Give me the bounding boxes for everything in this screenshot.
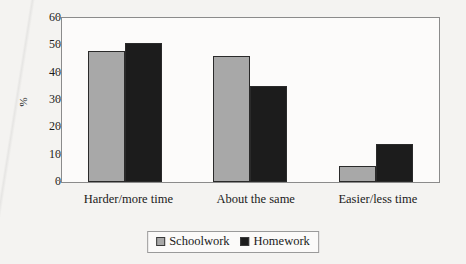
bar-group bbox=[213, 18, 287, 182]
bar-group bbox=[88, 18, 162, 182]
bar-group bbox=[339, 18, 413, 182]
chart-legend: SchoolworkHomework bbox=[147, 231, 319, 253]
x-axis-label: About the same bbox=[216, 192, 294, 207]
bar-schoolwork-1 bbox=[213, 56, 250, 182]
bar-schoolwork-0 bbox=[88, 51, 125, 182]
x-axis-labels: Harder/more timeAbout the sameEasier/les… bbox=[62, 192, 439, 207]
y-axis-tick-label: 10 bbox=[25, 149, 61, 159]
y-axis-tick-label: 50 bbox=[25, 39, 61, 49]
legend-label: Homework bbox=[254, 234, 310, 249]
y-axis: 0102030405060 bbox=[15, 17, 61, 183]
bar-homework-2 bbox=[376, 144, 413, 182]
bar-chart-figure: % 0102030405060 Harder/more timeAbout th… bbox=[0, 0, 466, 264]
x-axis-label: Harder/more time bbox=[84, 192, 173, 207]
bar-homework-1 bbox=[250, 86, 287, 182]
y-axis-tick-label: 40 bbox=[25, 67, 61, 77]
legend-label: Schoolwork bbox=[169, 234, 229, 249]
bar-schoolwork-2 bbox=[339, 166, 376, 182]
legend-entry: Homework bbox=[241, 234, 310, 249]
x-axis-label: Easier/less time bbox=[338, 192, 417, 207]
y-axis-tick-label: 20 bbox=[25, 121, 61, 131]
bar-homework-0 bbox=[125, 43, 162, 182]
y-axis-tick-label: 60 bbox=[25, 12, 61, 22]
black-square-icon bbox=[241, 237, 250, 246]
y-axis-tick-label: 0 bbox=[25, 176, 61, 186]
bars-layer bbox=[62, 18, 439, 182]
gray-square-icon bbox=[156, 237, 165, 246]
y-axis-tick-label: 30 bbox=[25, 94, 61, 104]
legend-entry: Schoolwork bbox=[156, 234, 229, 249]
